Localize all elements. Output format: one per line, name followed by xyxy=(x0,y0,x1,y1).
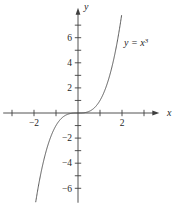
y-tick-label: 4 xyxy=(67,58,72,68)
curve-equation-label: y = x3 xyxy=(124,38,148,48)
y-tick-label: 6 xyxy=(67,33,72,43)
y-axis-arrow-icon xyxy=(76,8,81,15)
cubic-plot-canvas: −22642−2−4−6 xyxy=(0,0,184,208)
x-axis-arrow-icon xyxy=(152,111,159,116)
cubic-curve-path xyxy=(36,16,122,202)
curve-equation-exponent: 3 xyxy=(145,37,149,45)
x-axis-label: x xyxy=(167,108,171,118)
x-tick-label: 2 xyxy=(120,118,125,128)
y-tick-label: 2 xyxy=(67,83,72,93)
cubic-function-figure: −22642−2−4−6 y x y = x3 xyxy=(0,0,184,208)
y-tick-label: −6 xyxy=(62,184,72,194)
x-tick-label: −2 xyxy=(29,118,39,128)
curve-equation-base: y = x xyxy=(124,37,145,48)
y-tick-label: −4 xyxy=(62,158,72,168)
y-axis-label: y xyxy=(84,2,88,12)
y-tick-label: −2 xyxy=(62,133,72,143)
